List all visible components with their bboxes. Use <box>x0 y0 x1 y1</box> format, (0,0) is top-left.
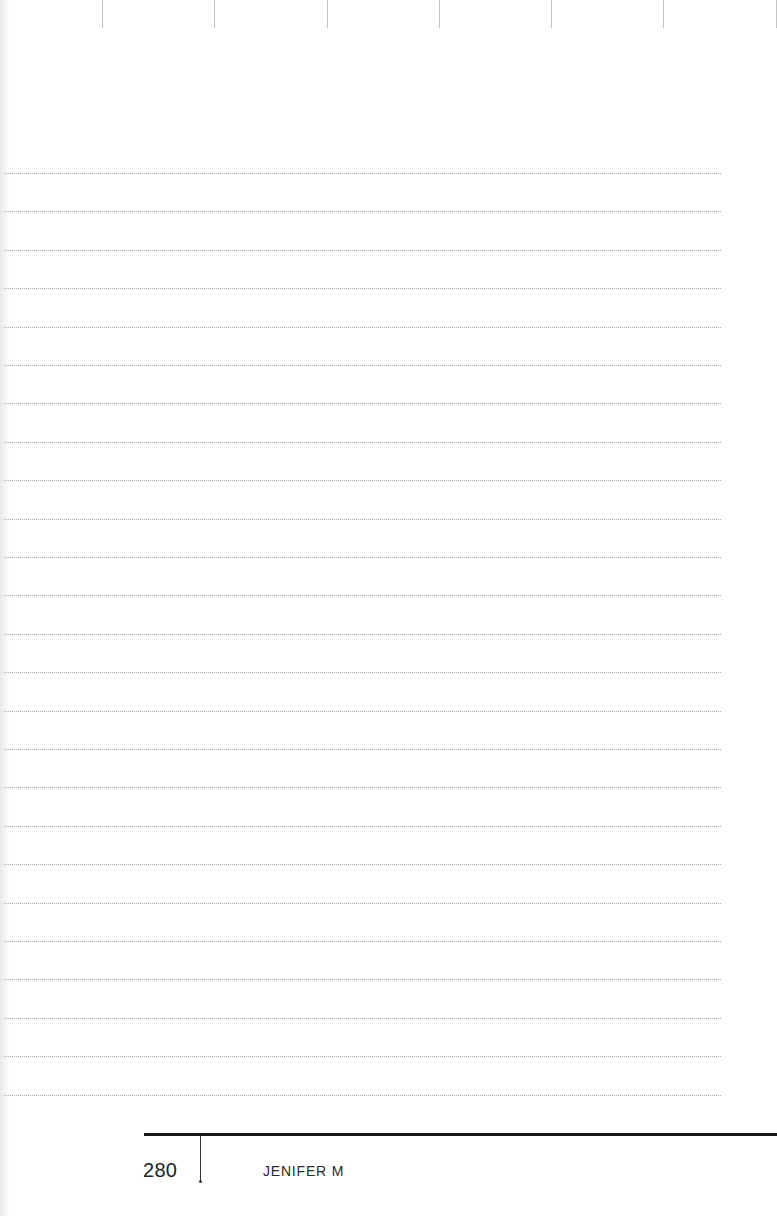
ruled-line <box>4 288 721 289</box>
ruled-lines-area <box>0 0 777 1216</box>
ruled-line <box>4 787 721 788</box>
ruled-line <box>4 595 721 596</box>
ruled-line <box>4 365 721 366</box>
ruled-line <box>4 173 721 174</box>
ruled-line <box>4 711 721 712</box>
footer-rule <box>144 1133 777 1136</box>
ruled-line <box>4 979 721 980</box>
ruled-line <box>4 634 721 635</box>
footer-separator-dot <box>199 1180 202 1183</box>
ruled-line <box>4 749 721 750</box>
ruled-line <box>4 672 721 673</box>
ruled-line <box>4 903 721 904</box>
ruled-line <box>4 941 721 942</box>
ruled-line <box>4 864 721 865</box>
ruled-line <box>4 403 721 404</box>
ruled-line <box>4 250 721 251</box>
ruled-line <box>4 826 721 827</box>
ruled-line <box>4 1095 721 1096</box>
ruled-line <box>4 557 721 558</box>
ruled-line <box>4 211 721 212</box>
ruled-line <box>4 480 721 481</box>
ruled-line <box>4 1056 721 1057</box>
page-number: 280 <box>143 1159 177 1181</box>
ruled-line <box>4 442 721 443</box>
running-head-author: JENIFER M <box>263 1163 344 1179</box>
ruled-line <box>4 519 721 520</box>
ruled-line <box>4 1018 721 1019</box>
ruled-line <box>4 327 721 328</box>
footer-separator <box>200 1136 201 1182</box>
